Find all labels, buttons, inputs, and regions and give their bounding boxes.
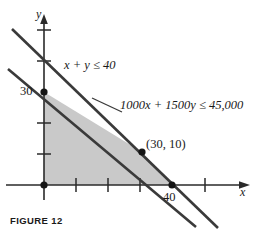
constraint-label-cost: 1000x + 1500y ≤ 45,000	[120, 99, 243, 112]
x-axis-label: x	[240, 186, 245, 198]
y-axis-arrow-icon	[40, 14, 48, 24]
figure-caption: FIGURE 12	[10, 216, 63, 226]
figure-container: x + y ≤ 40 1000x + 1500y ≤ 45,000 (30, 1…	[0, 0, 260, 239]
point-vertex-30-10	[138, 148, 145, 155]
y-axis-label: y	[36, 8, 41, 20]
point-origin	[40, 181, 47, 188]
graph-canvas	[0, 0, 260, 239]
point-y-intercept-30	[40, 88, 47, 95]
x-intercept-label: 40	[163, 191, 176, 204]
y-intercept-label: 30	[20, 85, 33, 98]
vertex-label-30-10: (30, 10)	[146, 138, 186, 151]
constraint-label-x-plus-y: x + y ≤ 40	[64, 59, 115, 72]
point-x-intercept-40	[168, 181, 175, 188]
